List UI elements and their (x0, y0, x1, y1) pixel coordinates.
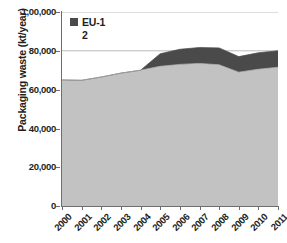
packaging-waste-area-chart: Packaging waste (kt/year) 1,00,000 80,00… (0, 0, 287, 243)
legend: EU-12 (70, 16, 108, 42)
x-tick-mark-2001 (82, 206, 83, 210)
x-tick-mark-2009 (239, 206, 240, 210)
x-tick-mark-2003 (121, 206, 122, 210)
x-tick-mark-2005 (160, 206, 161, 210)
x-tick-label-2004: 2004 (126, 211, 152, 237)
y-tick-mark-20000 (56, 167, 60, 168)
y-axis-line (61, 11, 62, 207)
y-tick-label-40000: 40,000 (10, 124, 56, 134)
x-tick-mark-2006 (180, 206, 181, 210)
y-tick-mark-0 (56, 206, 60, 207)
y-tick-mark-80000 (56, 51, 60, 52)
y-tick-label-20000: 20,000 (10, 162, 56, 172)
y-tick-mark-60000 (56, 90, 60, 91)
legend-swatch-eu12 (70, 18, 78, 26)
x-tick-mark-2000 (62, 206, 63, 210)
x-tick-mark-2008 (219, 206, 220, 210)
x-tick-label-2007: 2007 (185, 211, 211, 237)
x-tick-label-2003: 2003 (107, 211, 133, 237)
y-tick-label-80000: 80,000 (10, 46, 56, 56)
x-tick-label-2011: 2011 (264, 211, 287, 237)
y-tick-label-60000: 60,000 (10, 85, 56, 95)
x-tick-mark-2007 (200, 206, 201, 210)
y-axis-tick-labels: 1,00,000 80,000 60,000 40,000 20,000 0 (8, 0, 56, 243)
area-series-eu15 (62, 63, 278, 206)
y-tick-mark-40000 (56, 129, 60, 130)
x-tick-label-2008: 2008 (205, 211, 231, 237)
plot-area: EU-12 (62, 12, 278, 206)
legend-label-eu12: EU-12 (82, 16, 108, 42)
x-tick-mark-2004 (141, 206, 142, 210)
x-tick-mark-2002 (101, 206, 102, 210)
x-tick-mark-2010 (258, 206, 259, 210)
y-tick-label-100000: 1,00,000 (10, 7, 56, 17)
x-axis-tick-labels: 2000200120022003200420052006200720082009… (62, 206, 278, 243)
y-tick-mark-100000 (56, 12, 60, 13)
y-tick-label-0: 0 (10, 201, 56, 211)
x-tick-mark-2011 (278, 206, 279, 210)
